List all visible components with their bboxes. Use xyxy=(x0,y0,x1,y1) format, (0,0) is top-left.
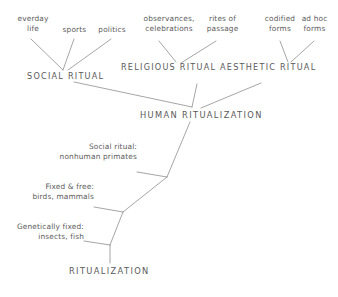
line-everyday-to-social xyxy=(31,39,63,70)
category-node-religious-ritual: RELIGIOUS RITUAL xyxy=(121,62,216,72)
leaf-label-politics: politics xyxy=(89,25,135,35)
trunk-human-to-primates-junction xyxy=(167,122,190,177)
leaf-label-observances-celebrations: observances, celebrations xyxy=(135,14,203,33)
stub-birds-mammals xyxy=(94,207,123,212)
evolution-label-genetically-fixed: Genetically fixed: insects, fish xyxy=(0,222,84,241)
line-adhoc-to-aesthetic xyxy=(291,41,314,62)
line-social-to-human xyxy=(74,82,192,107)
category-node-social-ritual: SOCIAL RITUAL xyxy=(27,71,104,81)
trunk-birds-to-insects-junction xyxy=(110,212,123,245)
line-sports-to-social xyxy=(63,39,74,70)
line-rites-to-religious xyxy=(181,41,216,63)
stub-insects-fish xyxy=(84,241,110,245)
line-observances-to-religious xyxy=(159,41,176,62)
node-human-ritualization: HUMAN RITUALIZATION xyxy=(140,110,263,120)
leaf-label-everyday-life: everday life xyxy=(8,14,58,33)
leaf-label-rites-of-passage: rites of passage xyxy=(200,14,245,33)
diagram-canvas: everday life sports politics observances… xyxy=(0,0,338,297)
line-codified-to-aesthetic xyxy=(280,41,288,62)
category-node-aesthetic-ritual: AESTHETIC RITUAL xyxy=(220,62,316,72)
evolution-label-social-ritual-primates: Social ritual: nonhuman primates xyxy=(37,142,137,161)
node-ritualization: RITUALIZATION xyxy=(69,266,150,276)
line-aesthetic-to-human xyxy=(201,83,261,108)
line-politics-to-social xyxy=(68,39,111,70)
trunk-primates-to-birds-junction xyxy=(123,177,167,212)
line-religious-to-human xyxy=(192,84,197,107)
leaf-label-ad-hoc-forms: ad hoc forms xyxy=(294,14,335,33)
evolution-label-fixed-and-free: Fixed & free: birds, mammals xyxy=(4,182,94,201)
stub-primates xyxy=(137,172,167,177)
